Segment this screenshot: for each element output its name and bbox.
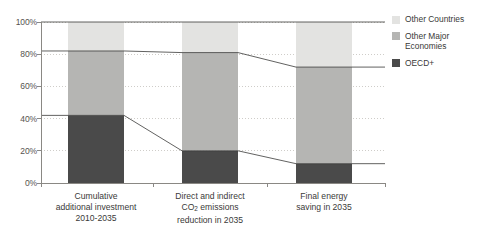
bar-segment bbox=[68, 115, 124, 183]
legend-swatch-icon bbox=[392, 59, 400, 67]
bar-segment bbox=[182, 22, 238, 53]
bar-segment bbox=[68, 22, 124, 51]
stack-connector-line bbox=[124, 115, 182, 150]
chart-container: 100%80%60%40%20%0% Cumulativeadditional … bbox=[0, 0, 479, 237]
label-line: saving in 2035 bbox=[267, 202, 381, 213]
label-line: reduction in 2035 bbox=[153, 215, 267, 226]
legend-item-label: Other Major Economies bbox=[405, 31, 479, 52]
legend-item[interactable]: OECD+ bbox=[392, 58, 479, 69]
y-axis-tick-label: 60% bbox=[20, 82, 37, 91]
bar-segment bbox=[182, 151, 238, 183]
chart-legend: Other CountriesOther Major EconomiesOECD… bbox=[392, 14, 479, 74]
bar-segment bbox=[296, 67, 352, 164]
legend-item-label: Other Countries bbox=[405, 14, 464, 25]
bar-segment bbox=[68, 51, 124, 115]
label-line: 2010-2035 bbox=[39, 213, 153, 224]
stack-connector-line bbox=[238, 53, 296, 67]
legend-swatch-icon bbox=[392, 32, 400, 40]
bar-segment bbox=[182, 53, 238, 151]
stack-connector-line bbox=[238, 151, 296, 164]
y-axis-tick-labels: 100%80%60%40%20%0% bbox=[0, 0, 37, 237]
legend-item-label: OECD+ bbox=[405, 58, 434, 69]
legend-item[interactable]: Other Countries bbox=[392, 14, 479, 25]
bar-segment bbox=[296, 164, 352, 183]
bar-segment bbox=[296, 22, 352, 67]
y-axis-tick-label: 40% bbox=[20, 115, 37, 124]
y-axis-tick-label: 20% bbox=[20, 147, 37, 156]
label-line: Final energy bbox=[267, 191, 381, 202]
label-line: additional investment bbox=[39, 202, 153, 213]
x-axis-category-label: Cumulativeadditional investment2010-2035 bbox=[39, 191, 153, 225]
legend-swatch-icon bbox=[392, 16, 400, 24]
legend-item[interactable]: Other Major Economies bbox=[392, 31, 479, 52]
stack-connector-line bbox=[124, 51, 182, 53]
label-line: CO2 emissions bbox=[153, 202, 267, 214]
y-axis-tick-label: 0% bbox=[25, 179, 37, 188]
subscript: 2 bbox=[194, 205, 198, 212]
y-axis-tick-label: 80% bbox=[20, 50, 37, 59]
y-axis-tick-label: 100% bbox=[16, 18, 37, 27]
label-line: Direct and indirect bbox=[153, 191, 267, 202]
x-axis-category-label: Final energysaving in 2035 bbox=[267, 191, 381, 213]
x-axis-category-label: Direct and indirectCO2 emissionsreductio… bbox=[153, 191, 267, 226]
label-line: Cumulative bbox=[39, 191, 153, 202]
